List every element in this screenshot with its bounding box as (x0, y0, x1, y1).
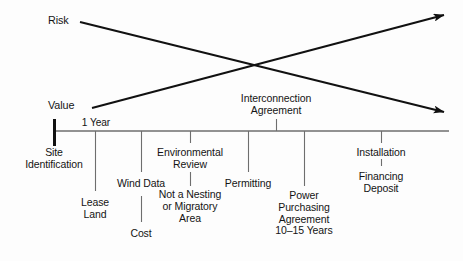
milestone-site-identification: Site Identification (25, 147, 83, 171)
milestone-financing-deposit: Financing Deposit (359, 171, 404, 195)
diagram-canvas (0, 0, 463, 261)
risk-label: Risk (48, 15, 69, 27)
milestone-cost: Cost (130, 228, 151, 240)
milestone-environmental-review: Environmental Review (157, 147, 223, 171)
milestone-interconnection-agreement: Interconnection Agreement (241, 93, 311, 117)
milestone-lease-land: Lease Land (81, 197, 109, 221)
wind-project-timeline-diagram: Risk Value 1 Year Interconnection Agreem… (0, 0, 463, 261)
milestone-not-a-nesting-or-migratory-area: Not a Nesting or Migratory Area (159, 189, 221, 224)
milestone-installation: Installation (357, 147, 406, 159)
value-label: Value (48, 100, 74, 112)
one-year-interval-label: 1 Year (82, 117, 110, 129)
milestone-permitting: Permitting (225, 178, 271, 190)
milestone-power-purchasing-agreement: Power Purchasing Agreement 10–15 Years (275, 190, 332, 237)
